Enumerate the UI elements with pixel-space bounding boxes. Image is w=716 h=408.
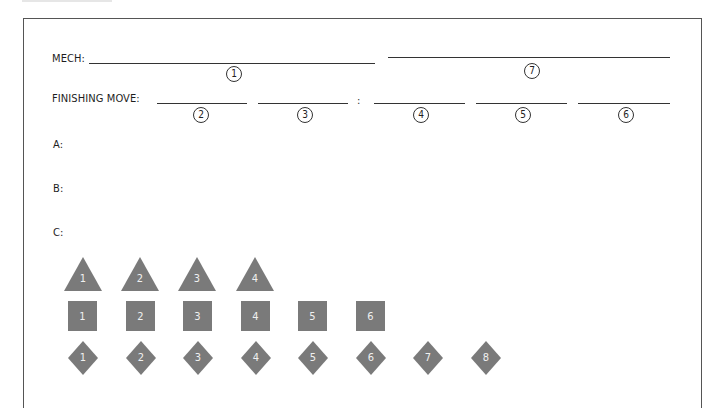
piece-number: 1 — [64, 272, 102, 285]
finishing-separator: : — [357, 94, 360, 107]
slot-number-4: 4 — [413, 107, 429, 123]
slot-number-5: 5 — [515, 107, 531, 123]
answer-b-label: B: — [53, 182, 63, 195]
piece-number: 5 — [298, 351, 328, 364]
slot-number-6: 6 — [618, 107, 634, 123]
diamond-piece-2[interactable]: 2 — [126, 341, 156, 375]
mech-blank-7[interactable] — [388, 57, 670, 58]
finishing-blank-3[interactable] — [258, 103, 348, 104]
square-piece-2[interactable]: 2 — [126, 301, 155, 331]
diamond-piece-4[interactable]: 4 — [241, 341, 271, 375]
piece-number: 2 — [126, 351, 156, 364]
piece-number: 4 — [236, 272, 274, 285]
piece-number: 2 — [121, 272, 159, 285]
piece-number: 7 — [413, 351, 443, 364]
finishing-move-label: FINISHING MOVE: — [52, 92, 140, 105]
square-piece-6[interactable]: 6 — [356, 301, 385, 331]
mech-label: MECH: — [52, 52, 85, 65]
triangle-piece-3[interactable]: 3 — [178, 257, 216, 291]
square-piece-3[interactable]: 3 — [183, 301, 212, 331]
finishing-blank-5[interactable] — [476, 103, 567, 104]
diamond-piece-1[interactable]: 1 — [68, 341, 98, 375]
finishing-blank-2[interactable] — [157, 103, 247, 104]
square-piece-5[interactable]: 5 — [298, 301, 327, 331]
finishing-blank-4[interactable] — [374, 103, 465, 104]
piece-number: 8 — [471, 351, 501, 364]
piece-number: 3 — [183, 351, 213, 364]
slot-number-1: 1 — [226, 66, 242, 82]
square-piece-4[interactable]: 4 — [241, 301, 270, 331]
diamond-piece-5[interactable]: 5 — [298, 341, 328, 375]
slot-number-2: 2 — [193, 107, 209, 123]
square-piece-1[interactable]: 1 — [68, 301, 97, 331]
triangle-piece-4[interactable]: 4 — [236, 257, 274, 291]
piece-number: 6 — [356, 351, 386, 364]
finishing-blank-6[interactable] — [578, 103, 670, 104]
triangle-piece-2[interactable]: 2 — [121, 257, 159, 291]
diamond-piece-8[interactable]: 8 — [471, 341, 501, 375]
piece-number: 4 — [241, 351, 271, 364]
diamond-piece-6[interactable]: 6 — [356, 341, 386, 375]
top-edge-bar — [22, 0, 112, 2]
triangle-piece-1[interactable]: 1 — [64, 257, 102, 291]
mech-blank-1[interactable] — [89, 63, 375, 64]
slot-number-7: 7 — [524, 63, 540, 79]
piece-number: 3 — [178, 272, 216, 285]
diamond-piece-3[interactable]: 3 — [183, 341, 213, 375]
diamond-piece-7[interactable]: 7 — [413, 341, 443, 375]
answer-a-label: A: — [53, 138, 63, 151]
piece-number: 1 — [68, 351, 98, 364]
slot-number-3: 3 — [297, 107, 313, 123]
answer-c-label: C: — [53, 226, 63, 239]
